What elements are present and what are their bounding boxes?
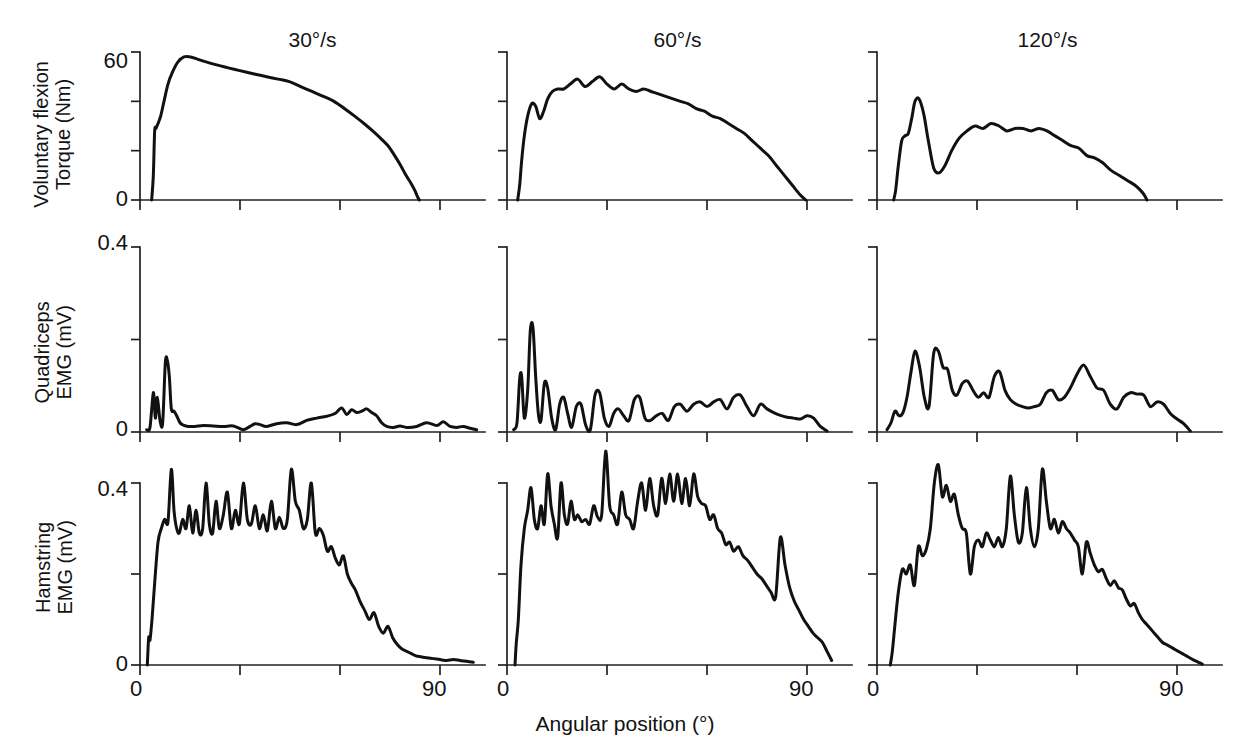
panel-2-1 [139, 231, 499, 458]
data-trace [152, 56, 420, 200]
ytick-label-torque-min: 0 [88, 186, 128, 212]
ytick-label-quadriceps-max: 0.4 [56, 230, 128, 256]
data-trace [518, 77, 806, 200]
ylabel-hamstring-line2: EMG (mV) [55, 520, 77, 614]
panel-2-3 [876, 231, 1236, 458]
data-trace [514, 323, 827, 432]
data-trace [887, 348, 1190, 431]
ylabel-row-torque: Voluntary flexion Torque (Nm) [30, 34, 75, 234]
data-trace [515, 451, 832, 665]
panel-1-1 [139, 36, 499, 226]
data-trace [894, 98, 1147, 200]
panel-1-2 [506, 36, 866, 226]
ylabel-torque-line1: Voluntary flexion [30, 61, 52, 208]
ytick-label-hamstring-min: 0 [88, 651, 128, 677]
data-trace [147, 469, 473, 665]
panel-3-2 [506, 467, 866, 691]
ylabel-hamstring-line1: Hamstring [32, 522, 54, 613]
ylabel-quadriceps-line2: EMG (mV) [53, 305, 75, 399]
ylabel-row-quadriceps: Quadriceps EMG (mV) [31, 257, 76, 447]
panel-1-3 [876, 36, 1236, 226]
ytick-label-torque-max: 60 [72, 48, 128, 74]
ytick-label-hamstring-max: 0.4 [56, 476, 128, 502]
xaxis-title: Angular position (°) [455, 712, 795, 736]
panel-3-3 [876, 467, 1236, 691]
data-trace [890, 465, 1202, 665]
ytick-label-quadriceps-min: 0 [88, 416, 128, 442]
figure-root: 30°/s 60°/s 120°/s Voluntary flexion Tor… [0, 0, 1242, 756]
data-trace [147, 357, 477, 431]
ylabel-row-hamstring: Hamstring EMG (mV) [32, 475, 77, 660]
panel-2-2 [506, 231, 866, 458]
ylabel-torque-line2: Torque (Nm) [52, 79, 74, 190]
ylabel-quadriceps-line1: Quadriceps [31, 301, 53, 403]
panel-3-1 [139, 467, 499, 691]
